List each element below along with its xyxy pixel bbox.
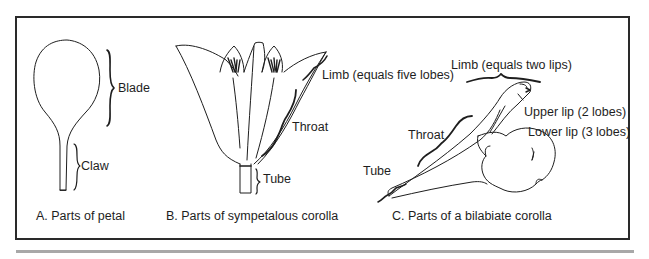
- caption-panel-c: C. Parts of a bilabiate corolla: [392, 210, 552, 223]
- brace-tube-c: [378, 184, 406, 202]
- caption-panel-a: A. Parts of petal: [36, 210, 125, 223]
- label-blade: Blade: [118, 82, 150, 95]
- label-tube-sympetalous: Tube: [263, 173, 291, 186]
- label-lower-lip: Lower lip (3 lobes): [528, 126, 630, 139]
- label-limb-bilabiate: Limb (equals two lips): [451, 59, 572, 72]
- brace-tube-b: [256, 169, 260, 194]
- label-limb-sympetalous: Limb (equals five lobes): [322, 69, 454, 82]
- label-throat-sympetalous: Throat: [292, 121, 328, 134]
- sympetalous-corolla-drawing: [176, 42, 326, 193]
- brace-claw: [74, 144, 80, 190]
- brace-limb-c: [467, 74, 540, 82]
- label-upper-lip: Upper lip (2 lobes): [524, 106, 626, 119]
- caption-panel-b: B. Parts of sympetalous corolla: [166, 210, 338, 223]
- brace-blade: [107, 50, 114, 126]
- label-throat-bilabiate: Throat: [408, 129, 444, 142]
- label-claw: Claw: [81, 160, 109, 173]
- label-tube-bilabiate: Tube: [363, 165, 391, 178]
- brace-throat-b: [262, 90, 296, 156]
